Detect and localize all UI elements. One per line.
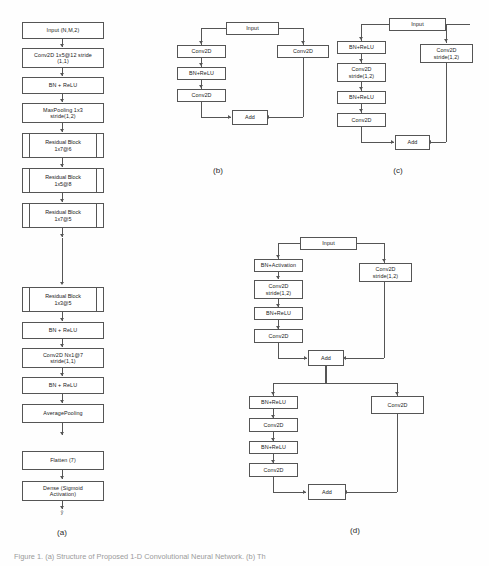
node-bn-relu: BN+ReLU (177, 67, 226, 80)
node-conv2d-1: Conv2D 1x5@12 stride (1,1) (22, 48, 104, 68)
arrowhead-icon (391, 140, 394, 144)
node-residual-block-3: Residual Block 1x7@5 (22, 203, 104, 228)
node-input: Input (389, 18, 446, 31)
arrowhead-icon (359, 59, 363, 62)
connector (446, 24, 470, 25)
node-bn-relu-2: BN+ReLU (249, 396, 298, 409)
panel-d-label: (d) (340, 526, 370, 535)
connector (384, 282, 385, 358)
connector (345, 358, 384, 359)
arrowhead-icon (199, 63, 203, 66)
connector (278, 358, 307, 359)
connector (361, 24, 389, 25)
arrowhead-icon (60, 73, 64, 76)
arrowhead-icon (60, 318, 64, 321)
node-conv2d-1: Conv2D stride(1,2) (337, 63, 386, 82)
residual-block-label: Residual Block 1x7@5 (29, 204, 97, 227)
arrowhead-icon (60, 99, 64, 102)
arrowhead-icon (60, 199, 64, 202)
node-conv2d-1: Conv2D (177, 45, 226, 58)
node-bn-relu-3: BN+ReLU (249, 441, 298, 454)
node-conv2d-4: Conv2D (249, 463, 298, 477)
node-flatten: Flatten (7) (22, 451, 104, 470)
connector (278, 243, 300, 244)
connector (201, 28, 226, 29)
node-skip-conv2d-1: Conv2D stride(1,2) (359, 263, 412, 282)
panel-b-label: (b) (203, 166, 233, 175)
node-maxpooling: MaxPooling 1x3 stride(1,2) (22, 103, 104, 123)
node-add-2: Add (308, 484, 346, 500)
connector (346, 492, 397, 493)
arrowhead-icon (60, 373, 64, 376)
connector (278, 343, 279, 358)
connector (201, 117, 231, 118)
node-bn-relu-3: BN + ReLU (22, 377, 104, 394)
connector (273, 383, 397, 384)
arrowhead-icon (395, 392, 399, 395)
arrowhead-icon (359, 109, 363, 112)
node-conv2d-3: Conv2D (249, 418, 298, 432)
node-averagepooling: AveragePooling (22, 404, 104, 423)
arrowhead-icon (359, 37, 363, 40)
arrowhead-icon (60, 282, 64, 285)
node-bn-activation: BN+Activation (254, 259, 303, 272)
connector (397, 414, 398, 492)
connector (357, 243, 384, 244)
panel-a-label: (a) (42, 528, 82, 537)
node-residual-block-2: Residual Block 1x5@8 (22, 168, 104, 193)
arrowhead-icon (271, 392, 275, 395)
connector (273, 477, 274, 492)
connector (361, 142, 394, 143)
arrowhead-icon (304, 356, 307, 360)
node-conv2d-2: Conv2D (337, 113, 386, 127)
connector (430, 142, 446, 143)
connector (303, 58, 304, 117)
connector (361, 127, 362, 142)
arrowhead-icon (444, 39, 448, 42)
node-input: Input (N,M,2) (22, 22, 104, 39)
arrowhead-icon (228, 115, 231, 119)
node-input: Input (300, 237, 357, 250)
arrowhead-icon (60, 129, 64, 132)
node-conv2d-2: Conv2D (254, 329, 303, 343)
arrowhead-icon (359, 87, 363, 90)
arrowhead-icon (303, 490, 306, 494)
arrowhead-icon (60, 44, 64, 47)
node-conv2d-1: Conv2D stride(1,2) (254, 280, 303, 299)
connector (273, 492, 306, 493)
arrowhead-icon (60, 432, 64, 435)
node-dense: Dense (Sigmoid Activation) (22, 481, 104, 501)
connector (279, 28, 303, 29)
node-conv2d-2: Conv2D (177, 89, 226, 102)
node-bn-relu-2: BN+ReLU (337, 91, 386, 104)
node-residual-block-1: Residual Block 1x7@6 (22, 133, 104, 158)
node-add: Add (395, 135, 430, 150)
residual-block-label: Residual Block 1x5@8 (29, 169, 97, 192)
arrowhead-icon (60, 234, 64, 237)
arrowhead-icon (276, 276, 280, 279)
connector (325, 366, 327, 383)
arrowhead-icon (60, 476, 64, 479)
node-bn-relu-1: BN+ReLU (254, 307, 303, 320)
arrowhead-icon (199, 85, 203, 88)
connector (201, 102, 202, 117)
figure-caption: Figure 1. (a) Structure of Proposed 1-D … (14, 552, 476, 565)
node-skip-conv2d-2: Conv2D (371, 396, 424, 414)
connector (268, 117, 303, 118)
node-input: Input (226, 22, 279, 35)
node-bn-relu-1: BN + ReLU (22, 77, 104, 94)
arrowhead-icon (60, 164, 64, 167)
panel-c-label: (c) (383, 166, 413, 175)
node-add-1: Add (308, 350, 344, 366)
node-conv2d-2: Conv2D Nx1@7 stride(1,1) (22, 348, 104, 368)
node-skip-conv2d: Conv2D (277, 45, 329, 58)
connector (62, 238, 63, 282)
arrowhead-icon (60, 344, 64, 347)
residual-block-label: Residual Block 1x7@6 (29, 134, 97, 157)
arrowhead-icon (276, 255, 280, 258)
figure-canvas: Input (N,M,2) Conv2D 1x5@12 stride (1,1)… (0, 0, 489, 566)
node-add: Add (232, 110, 268, 125)
node-skip-conv2d: Conv2D stride(1,2) (420, 44, 473, 63)
node-bn-relu-2: BN + ReLU (22, 322, 104, 339)
arrowhead-icon (60, 400, 64, 403)
